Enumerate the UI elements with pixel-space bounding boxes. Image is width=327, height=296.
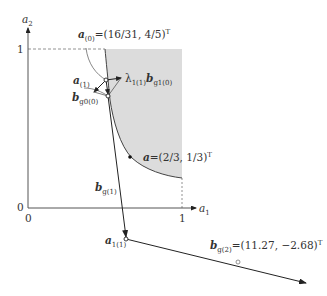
x-axis-label: a1 bbox=[199, 203, 210, 217]
label-a-optimum: a=(2/3, 1/3)T bbox=[143, 152, 212, 163]
a11-symbol: a bbox=[105, 234, 112, 246]
x-tick-zero: 0 bbox=[25, 213, 32, 224]
a0-value: =(16/31, 4/5) bbox=[95, 28, 166, 40]
x-axis-sub: 1 bbox=[205, 209, 209, 217]
y-axis-label: a2 bbox=[22, 14, 33, 28]
a-opt-value: =(2/3, 1/3) bbox=[150, 151, 207, 163]
bg0-sub: g0(0) bbox=[79, 98, 98, 106]
bg2-sub: g(2) bbox=[217, 246, 231, 254]
a0-sup: T bbox=[166, 28, 171, 36]
label-a11: a1(1) bbox=[105, 235, 126, 249]
lambda-b-sub: g1(0) bbox=[153, 79, 172, 87]
lambda-sub: 1(1) bbox=[132, 79, 146, 87]
label-bg0: bg0(0) bbox=[72, 92, 98, 106]
bg2-sup: T bbox=[318, 239, 323, 247]
y-tick-one: 1 bbox=[17, 44, 24, 55]
label-a1: a(1) bbox=[73, 75, 90, 89]
a11-sub: 1(1) bbox=[112, 241, 126, 249]
diagram-canvas: a2 a1 1 0 0 1 a(0)=(16/31, 4/5)T a(1) λ1… bbox=[0, 0, 327, 296]
a0-symbol: a bbox=[78, 28, 85, 40]
a-opt-symbol: a bbox=[143, 151, 150, 163]
y-tick-zero: 0 bbox=[17, 202, 24, 213]
a-opt-sup: T bbox=[207, 151, 212, 159]
a1-sub: (1) bbox=[80, 81, 90, 89]
label-bg2: bg(2)=(11.27, −2.68)T bbox=[210, 240, 322, 254]
point-a-optimum bbox=[128, 155, 132, 159]
bg2-value: =(11.27, −2.68) bbox=[232, 239, 318, 251]
a0-sub: (0) bbox=[85, 35, 95, 43]
point-a0 bbox=[104, 78, 108, 82]
x-tick-one: 1 bbox=[179, 213, 186, 224]
point-on-bg2 bbox=[236, 260, 240, 264]
lambda-symbol: λ bbox=[125, 72, 132, 84]
a1-symbol: a bbox=[73, 74, 80, 86]
point-a1 bbox=[106, 94, 110, 98]
bg1-sub: g(1) bbox=[102, 188, 116, 196]
label-a0: a(0)=(16/31, 4/5)T bbox=[78, 29, 170, 43]
label-lambda-bg1: λ1(1)bg1(0) bbox=[125, 73, 172, 87]
label-bg1: bg(1) bbox=[95, 182, 117, 196]
bg0-vector bbox=[94, 80, 106, 92]
y-axis-sub: 2 bbox=[28, 20, 32, 28]
